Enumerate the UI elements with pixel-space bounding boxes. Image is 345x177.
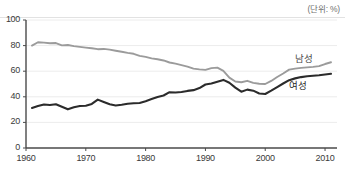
series-line-female <box>32 74 331 110</box>
y-axis-label: 0 <box>0 142 20 152</box>
series-label-female: 여성 <box>289 78 306 92</box>
y-axis-label: 80 <box>0 40 20 50</box>
x-axis-label: 1990 <box>190 153 220 163</box>
x-axis-label: 2010 <box>310 153 340 163</box>
x-axis-label: 2000 <box>250 153 280 163</box>
x-axis-label: 1980 <box>131 153 161 163</box>
unit-note: (단위: %) <box>307 2 340 14</box>
header-divider <box>0 17 345 18</box>
x-axis-label: 1960 <box>11 153 41 163</box>
y-axis-label: 100 <box>0 14 20 24</box>
series-line-male <box>32 42 331 84</box>
chart-container: (단위: %) 020406080100 1960197019801990200… <box>0 0 345 177</box>
series-label-male: 남성 <box>295 51 312 65</box>
y-axis-label: 60 <box>0 65 20 75</box>
y-axis-label: 20 <box>0 116 20 126</box>
series-paths <box>32 42 331 109</box>
x-axis-label: 1970 <box>71 153 101 163</box>
y-axis-label: 40 <box>0 91 20 101</box>
